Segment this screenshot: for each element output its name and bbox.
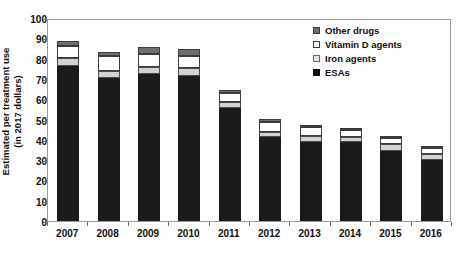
bar-segment[interactable] — [300, 142, 322, 221]
legend-swatch-icon — [313, 69, 320, 76]
legend-item[interactable]: Other drugs — [313, 24, 435, 37]
legend-item[interactable]: Iron agents — [313, 52, 435, 65]
bar-segment[interactable] — [219, 102, 241, 108]
bar-segment[interactable] — [219, 90, 241, 93]
bar-segment[interactable] — [259, 122, 281, 132]
bar-group[interactable] — [219, 18, 241, 221]
bar-group[interactable] — [138, 18, 160, 221]
bar-segment[interactable] — [98, 52, 120, 56]
bar-segment[interactable] — [380, 151, 402, 221]
x-axis-tick-mark — [330, 222, 331, 226]
bar-segment[interactable] — [380, 138, 402, 144]
bar-group[interactable] — [259, 18, 281, 221]
bar-segment[interactable] — [57, 41, 79, 46]
bar-segment[interactable] — [138, 67, 160, 74]
legend-item[interactable]: Vitamin D agents — [313, 38, 435, 51]
bar-segment[interactable] — [138, 54, 160, 67]
bar-segment[interactable] — [178, 76, 200, 221]
y-axis-ticks: 1009080706050403020100 — [19, 0, 47, 253]
bar-segment[interactable] — [138, 47, 160, 53]
legend-swatch-icon — [313, 41, 320, 48]
bar-group[interactable] — [57, 18, 79, 221]
y-axis-title-line-1: Estimated per treatment use — [1, 47, 13, 175]
legend-swatch-icon — [313, 27, 320, 34]
bar-segment[interactable] — [57, 66, 79, 221]
bar-segment[interactable] — [219, 93, 241, 102]
bar-segment[interactable] — [421, 148, 443, 154]
bar-segment[interactable] — [259, 119, 281, 122]
bar-segment[interactable] — [300, 127, 322, 136]
bar-group[interactable] — [178, 18, 200, 221]
bar-segment[interactable] — [138, 74, 160, 221]
bar-segment[interactable] — [421, 160, 443, 221]
bar-segment[interactable] — [178, 56, 200, 68]
bar-group[interactable] — [98, 18, 120, 221]
x-axis-tick-label: 2015 — [367, 228, 413, 239]
x-axis-tick-mark — [370, 222, 371, 226]
stacked-bar-chart: Estimated per treatment use (in 2017 dol… — [0, 0, 460, 253]
x-axis-tick-label: 2012 — [246, 228, 292, 239]
x-axis-tick-label: 2011 — [206, 228, 252, 239]
legend-swatch-icon — [313, 55, 320, 62]
x-axis-tick-label: 2007 — [44, 228, 90, 239]
legend-item-label: Vitamin D agents — [325, 39, 402, 50]
x-axis-tick-mark — [289, 222, 290, 226]
bar-segment[interactable] — [178, 68, 200, 76]
legend-item-label: Other drugs — [325, 25, 379, 36]
bar-segment[interactable] — [340, 128, 362, 130]
bar-segment[interactable] — [300, 136, 322, 142]
x-axis-tick-mark — [87, 222, 88, 226]
x-axis-tick-mark — [209, 222, 210, 226]
bar-segment[interactable] — [219, 108, 241, 221]
chart-legend: Other drugsVitamin D agentsIron agentsES… — [313, 24, 435, 80]
bar-segment[interactable] — [57, 58, 79, 66]
bar-segment[interactable] — [340, 142, 362, 221]
x-axis-tick-mark — [411, 222, 412, 226]
bar-segment[interactable] — [98, 78, 120, 221]
legend-item[interactable]: ESAs — [313, 66, 435, 79]
bar-segment[interactable] — [421, 154, 443, 160]
bar-segment[interactable] — [380, 144, 402, 151]
bar-segment[interactable] — [259, 132, 281, 137]
x-axis-tick-label: 2016 — [408, 228, 454, 239]
bar-segment[interactable] — [421, 146, 443, 148]
bar-segment[interactable] — [98, 71, 120, 78]
x-axis-tick-label: 2010 — [165, 228, 211, 239]
bar-segment[interactable] — [178, 49, 200, 55]
bar-segment[interactable] — [57, 46, 79, 57]
bar-segment[interactable] — [340, 137, 362, 142]
legend-item-label: Iron agents — [325, 53, 376, 64]
bar-segment[interactable] — [300, 125, 322, 127]
x-axis-tick-mark — [128, 222, 129, 226]
x-axis-tick-mark — [451, 222, 452, 226]
bar-segment[interactable] — [380, 136, 402, 138]
bar-segment[interactable] — [98, 56, 120, 71]
x-axis-ticks: 2007200820092010201120122013201420152016 — [47, 222, 451, 253]
x-axis-tick-label: 2008 — [85, 228, 131, 239]
bar-segment[interactable] — [259, 137, 281, 221]
legend-item-label: ESAs — [325, 67, 350, 78]
x-axis-tick-label: 2013 — [287, 228, 333, 239]
x-axis-tick-mark — [168, 222, 169, 226]
x-axis-tick-label: 2009 — [125, 228, 171, 239]
x-axis-tick-mark — [249, 222, 250, 226]
x-axis-tick-mark — [47, 222, 48, 226]
x-axis-tick-label: 2014 — [327, 228, 373, 239]
bar-segment[interactable] — [340, 130, 362, 137]
